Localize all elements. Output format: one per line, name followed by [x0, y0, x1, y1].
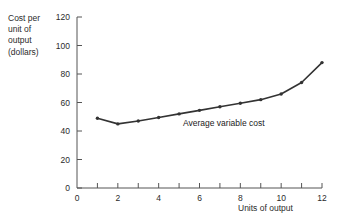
x-tick-label: 12 [317, 193, 327, 203]
data-point-marker [198, 109, 201, 112]
chart-container: Cost per unit of output (dollars) 020406… [0, 0, 339, 224]
data-point-marker [279, 92, 282, 95]
data-point-marker [300, 81, 303, 84]
data-point-marker [157, 116, 160, 119]
tick-labels-group: 020406080100120024681012 [56, 12, 327, 203]
x-tick-label: 10 [276, 193, 286, 203]
x-tick-label: 0 [75, 193, 80, 203]
data-point-marker [177, 112, 180, 115]
tick-marks-group [77, 17, 322, 188]
y-tick-label: 60 [61, 98, 71, 108]
y-tick-label: 100 [56, 41, 70, 51]
x-tick-label: 8 [238, 193, 243, 203]
data-point-marker [116, 122, 119, 125]
data-point-marker [259, 98, 262, 101]
x-axis-title: Units of output [238, 203, 293, 213]
data-point-marker [239, 102, 242, 105]
y-tick-label: 120 [56, 12, 70, 22]
series-annotation-average-variable-cost: Average variable cost [183, 118, 265, 128]
data-point-marker [137, 119, 140, 122]
y-tick-label: 20 [61, 155, 71, 165]
y-tick-label: 80 [61, 69, 71, 79]
y-tick-label: 0 [65, 183, 70, 193]
data-point-marker [218, 105, 221, 108]
axes-group [77, 17, 322, 188]
x-tick-label: 4 [156, 193, 161, 203]
x-tick-label: 2 [115, 193, 120, 203]
data-point-marker [320, 61, 323, 64]
x-tick-label: 6 [197, 193, 202, 203]
average-variable-cost-line [97, 63, 322, 124]
y-tick-label: 40 [61, 126, 71, 136]
data-point-marker [96, 116, 99, 119]
plot-area: 020406080100120024681012 [0, 0, 339, 224]
data-series-group [96, 61, 324, 126]
